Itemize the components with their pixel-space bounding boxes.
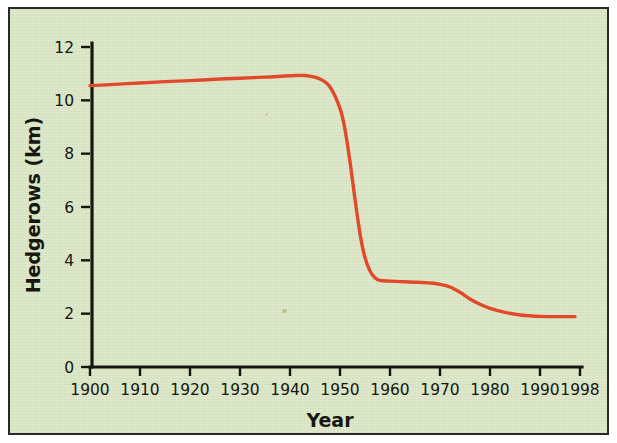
y-tick-label-8: 8 [64,145,74,163]
y-tick-label-4: 4 [64,252,74,270]
line-chart: 024681012 190019101920193019401950196019… [10,9,609,435]
chart-plate: 024681012 190019101920193019401950196019… [8,7,609,435]
y-tick-labels: 024681012 [54,39,74,377]
x-tick-label-1920: 1920 [170,381,209,399]
x-axis-title: Year [305,409,354,431]
x-tick-label-1970: 1970 [420,381,459,399]
axes-group [90,43,582,367]
y-tick-label-10: 10 [54,92,74,110]
y-tick-label-0: 0 [64,359,74,377]
x-tick-label-1960: 1960 [370,381,409,399]
x-tick-label-1930: 1930 [220,381,259,399]
y-tick-label-12: 12 [54,39,74,57]
y-axis-title: Hedgerows (km) [22,117,44,294]
hedgerows-series-line [90,75,575,316]
y-axis-ticks [81,47,90,367]
x-tick-label-1940: 1940 [270,381,309,399]
x-tick-labels: 1900191019201930194019501960197019801990… [70,381,599,399]
y-tick-label-6: 6 [64,199,74,217]
x-tick-label-1950: 1950 [320,381,359,399]
y-tick-label-2: 2 [64,305,74,323]
figure-root: 024681012 190019101920193019401950196019… [0,0,617,443]
x-tick-label-1910: 1910 [120,381,159,399]
x-tick-label-1998: 1998 [560,381,599,399]
x-tick-label-1980: 1980 [470,381,509,399]
x-tick-label-1990: 1990 [520,381,559,399]
x-tick-label-1900: 1900 [70,381,109,399]
